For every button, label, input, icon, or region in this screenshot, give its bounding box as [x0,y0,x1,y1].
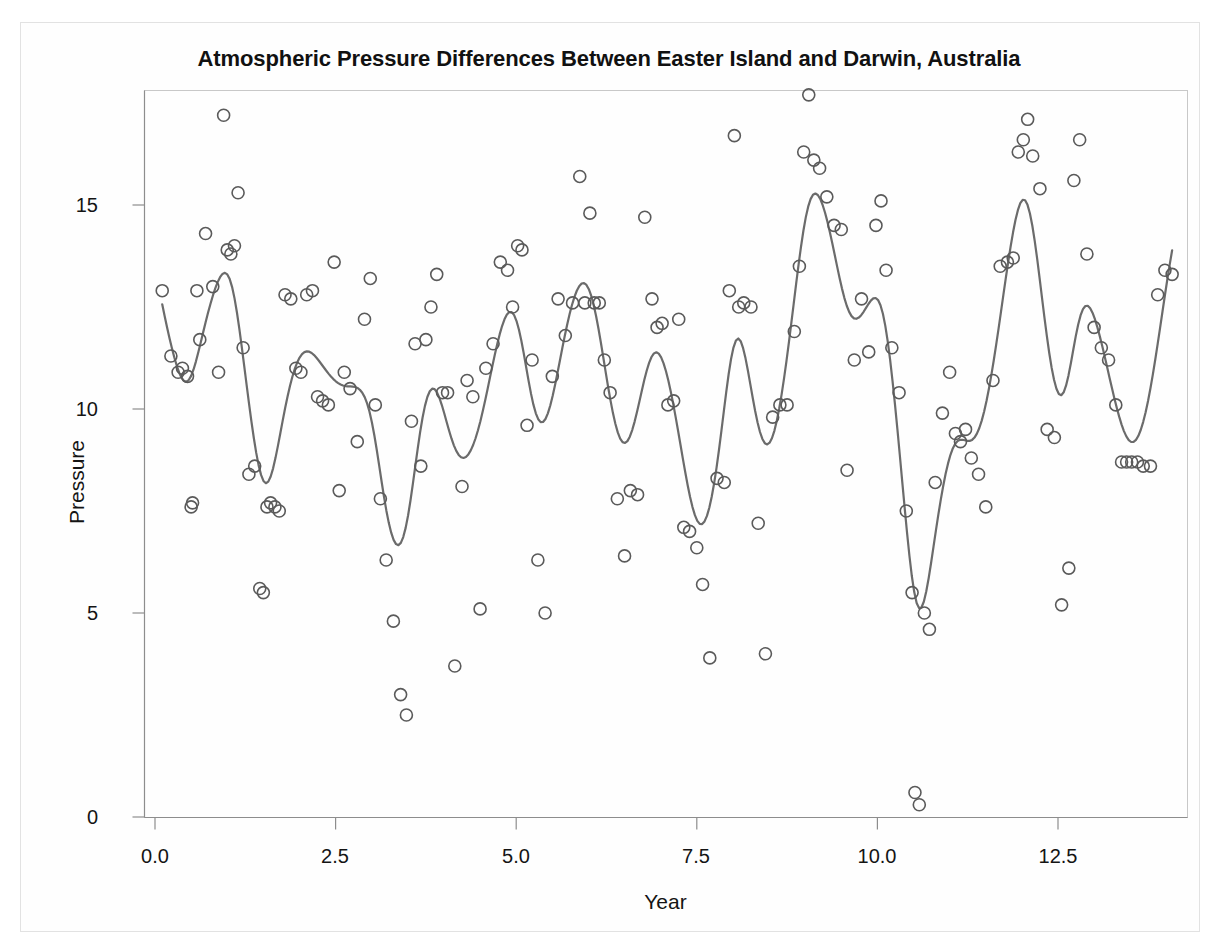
data-point [456,481,468,493]
data-point [156,285,168,297]
data-point [480,362,492,374]
data-point [745,301,757,313]
data-point [507,301,519,313]
data-point [1034,183,1046,195]
plot-canvas [0,0,1218,950]
data-point [200,228,212,240]
data-point [539,607,551,619]
data-point [574,170,586,182]
data-point [1063,562,1075,574]
data-point [965,452,977,464]
data-point [913,799,925,811]
data-point [387,615,399,627]
data-point [960,423,972,435]
data-point [848,354,860,366]
data-point [1017,134,1029,146]
data-point [333,485,345,497]
data-point [1081,248,1093,260]
data-point [752,517,764,529]
data-point [1074,134,1086,146]
data-point [697,578,709,590]
data-point [1041,423,1053,435]
data-point [632,489,644,501]
data-point [532,554,544,566]
data-point [906,587,918,599]
data-point [936,407,948,419]
data-point [624,485,636,497]
data-point [639,211,651,223]
data-point [704,652,716,664]
data-point [828,219,840,231]
data-point [1144,460,1156,472]
data-point [502,264,514,276]
data-point [918,607,930,619]
data-point [718,476,730,488]
data-point [1048,432,1060,444]
data-point [994,260,1006,272]
data-point [798,146,810,158]
data-point [856,293,868,305]
data-point [359,313,371,325]
data-point [987,374,999,386]
data-point [218,109,230,121]
data-point [646,293,658,305]
data-point [863,346,875,358]
data-point [611,493,623,505]
data-point [808,154,820,166]
data-point [835,223,847,235]
data-point [673,313,685,325]
data-point [723,285,735,297]
data-point [526,354,538,366]
data-point [191,285,203,297]
data-point [552,293,564,305]
data-point [893,387,905,399]
data-point [1068,175,1080,187]
data-point [187,497,199,509]
data-point [923,623,935,635]
data-point [420,334,432,346]
data-point [875,195,887,207]
data-point [213,366,225,378]
plot-area-border [145,91,1188,818]
data-point [870,219,882,231]
data-point [1027,150,1039,162]
data-point [232,187,244,199]
data-point [461,374,473,386]
data-point [619,550,631,562]
data-point [1022,113,1034,125]
data-point [781,399,793,411]
data-point [1056,599,1068,611]
data-point [980,501,992,513]
data-point [415,460,427,472]
data-point [759,648,771,660]
data-point [400,709,412,721]
data-point [351,436,363,448]
scatter-markers [156,89,1178,811]
data-point [431,268,443,280]
data-point [395,689,407,701]
data-point [474,603,486,615]
data-point [328,256,340,268]
data-point [880,264,892,276]
data-point [1012,146,1024,158]
data-point [711,472,723,484]
data-point [584,207,596,219]
data-point [944,366,956,378]
data-point [728,130,740,142]
data-point [973,468,985,480]
data-point [909,787,921,799]
data-point [1103,354,1115,366]
figure-root: Atmospheric Pressure Differences Between… [0,0,1218,950]
data-point [929,476,941,488]
data-point [405,415,417,427]
data-point [380,554,392,566]
data-point [814,162,826,174]
data-point [369,399,381,411]
data-point [449,660,461,672]
data-point [165,350,177,362]
data-point [344,383,356,395]
data-point [841,464,853,476]
data-point [425,301,437,313]
data-point [364,272,376,284]
data-point [338,366,350,378]
